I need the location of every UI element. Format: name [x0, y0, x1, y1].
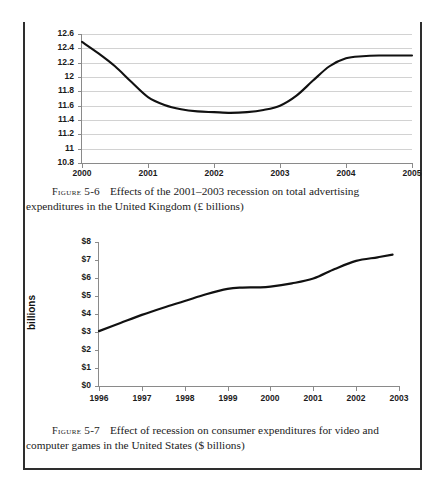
figure-number: 5-7 [84, 424, 100, 436]
figure-caption-line2: expenditures in the United Kingdom (£ bi… [26, 200, 244, 212]
figure-caption-line1: Effects of the 2001–2003 recession on to… [110, 185, 359, 197]
figure-caption-line2: computer games in the United States ($ b… [26, 439, 245, 451]
data-series-line [26, 24, 420, 184]
figure-caption-line1: Effect of recession on consumer expendit… [110, 424, 379, 436]
figure-5-6-caption: Figure 5-6Effects of the 2001–2003 reces… [26, 184, 418, 214]
figure-label-word: Figure [52, 425, 81, 436]
figure-number: 5-6 [84, 185, 100, 197]
figure-label-word: Figure [52, 186, 81, 197]
figure-5-7-caption: Figure 5-7Effect of recession on consume… [26, 423, 418, 453]
figure-5-6: 12.612.412.21211.811.611.411.21110.82000… [26, 24, 420, 208]
data-series-line [26, 226, 420, 426]
figure-5-7: $8$7$6$5$4$3$2$1$01996199719981999200020… [26, 226, 420, 458]
